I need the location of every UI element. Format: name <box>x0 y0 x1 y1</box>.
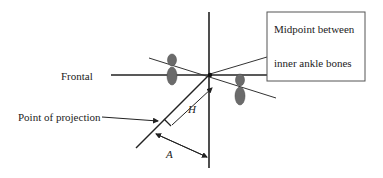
projection-pointer-arrow <box>102 117 158 121</box>
a-dimension-arrow-back <box>156 134 207 157</box>
midpoint-leader <box>210 57 267 74</box>
frontal-label: Frontal <box>61 70 93 82</box>
a-label: A <box>165 148 173 160</box>
h-label: H <box>187 103 197 115</box>
left-foot <box>167 54 177 85</box>
right-foot <box>235 74 245 105</box>
h-tick <box>164 119 171 126</box>
midpoint-label-line2: inner ankle bones <box>274 57 352 69</box>
projection-diagram: Frontal Point of projection Midpoint bet… <box>0 0 383 178</box>
midpoint-label-line1: Midpoint between <box>274 23 355 35</box>
projection-line <box>136 75 209 148</box>
midpoint-dot <box>208 73 212 77</box>
point-of-projection-label: Point of projection <box>18 111 101 123</box>
